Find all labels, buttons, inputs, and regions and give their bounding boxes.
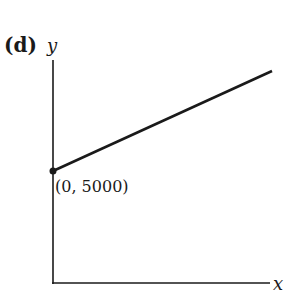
- chart-canvas: (d) y x (0, 5000): [0, 0, 302, 303]
- point-annotation: (0, 5000): [55, 177, 129, 196]
- y-axis-label: y: [46, 35, 58, 56]
- data-point: [50, 168, 57, 175]
- x-axis-label: x: [273, 273, 283, 294]
- panel-label: (d): [4, 33, 37, 57]
- data-line: [53, 71, 272, 171]
